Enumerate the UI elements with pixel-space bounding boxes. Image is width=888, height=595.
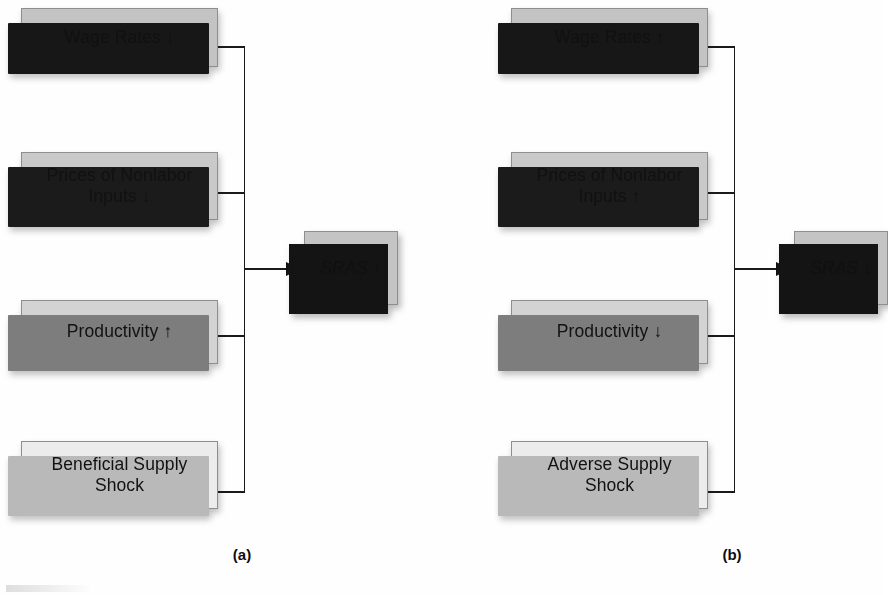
panel-b-caption: (b)	[692, 546, 772, 563]
panel-a-connector-stub-4	[218, 491, 245, 493]
panel-b-wage-rates-label: Wage Rates ↑	[546, 27, 672, 48]
panel-b-result-arrow-line	[734, 268, 778, 270]
panel-b-connector-stub-1	[708, 46, 735, 48]
panel-a-supply-shock-label: Beneficial Supply Shock	[44, 454, 196, 497]
panel-b-supply-shock-label: Adverse Supply Shock	[540, 454, 680, 497]
panel-a-sras-increase-box[interactable]: SRAS ↑	[304, 231, 398, 305]
panel-b-wage-rates-box[interactable]: Wage Rates ↑	[511, 8, 708, 67]
panel-a-productivity-box[interactable]: Productivity ↑	[21, 300, 218, 364]
panel-a-result-arrow-line	[244, 268, 288, 270]
panel-b-sras-decrease-box[interactable]: SRAS ↓	[794, 231, 888, 305]
panel-b-connector-stub-4	[708, 491, 735, 493]
panel-a-prices-nonlabor-inputs-box[interactable]: Prices of Nonlabor Inputs ↓	[21, 152, 218, 220]
panel-b-prices-nonlabor-inputs-label: Prices of Nonlabor Inputs ↑	[529, 165, 691, 208]
panel-b-sras-label: SRAS ↓	[804, 258, 877, 279]
panel-b-productivity-label: Productivity ↓	[549, 321, 670, 342]
panel-a-supply-shock-box[interactable]: Beneficial Supply Shock	[21, 441, 218, 509]
panel-b-supply-shock-box[interactable]: Adverse Supply Shock	[511, 441, 708, 509]
panel-b-prices-nonlabor-inputs-box[interactable]: Prices of Nonlabor Inputs ↑	[511, 152, 708, 220]
panel-a-connector-stub-3	[218, 335, 245, 337]
panel-a-productivity-label: Productivity ↑	[59, 321, 180, 342]
panel-a-wage-rates-label: Wage Rates ↓	[56, 27, 182, 48]
panel-a-connector-stub-2	[218, 192, 245, 194]
panel-a-prices-nonlabor-inputs-label: Prices of Nonlabor Inputs ↓	[39, 165, 201, 208]
panel-a-wage-rates-box[interactable]: Wage Rates ↓	[21, 8, 218, 67]
panel-a: Wage Rates ↓ Prices of Nonlabor Inputs ↓…	[0, 0, 442, 595]
scan-edge-artifact	[6, 585, 90, 592]
panel-a-caption: (a)	[202, 546, 282, 563]
panel-a-sras-label: SRAS ↑	[314, 258, 387, 279]
panel-b-productivity-box[interactable]: Productivity ↓	[511, 300, 708, 364]
panel-b-connector-stub-2	[708, 192, 735, 194]
panel-b: Wage Rates ↑ Prices of Nonlabor Inputs ↑…	[442, 0, 884, 595]
panel-a-connector-stub-1	[218, 46, 245, 48]
panel-b-connector-stub-3	[708, 335, 735, 337]
